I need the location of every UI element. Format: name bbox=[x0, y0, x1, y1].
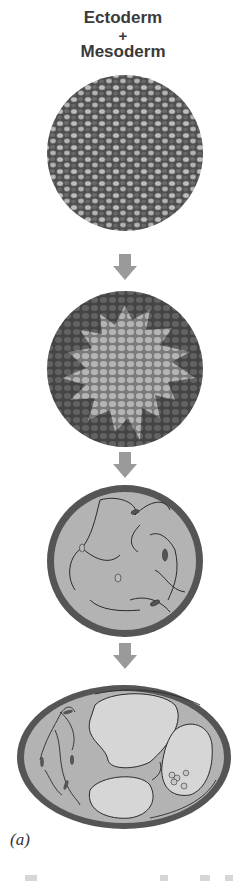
cavity-lower bbox=[89, 777, 153, 819]
cut-off-caption-fragment bbox=[200, 875, 210, 881]
cut-off-caption-fragment bbox=[225, 875, 233, 881]
panel-label: (a) bbox=[10, 830, 30, 850]
cut-off-caption-fragment bbox=[25, 875, 37, 881]
arrow-down-icon bbox=[113, 643, 137, 669]
stage-2-sorting-cells bbox=[47, 291, 203, 447]
arrow-down-icon bbox=[113, 452, 137, 478]
arrow-down-icon bbox=[113, 254, 137, 280]
stage-3-mesenchyme-sphere bbox=[47, 485, 203, 637]
stage-1-mixed-cells bbox=[47, 75, 203, 231]
diagram-canvas bbox=[0, 0, 246, 881]
cut-off-caption-fragment bbox=[160, 875, 168, 881]
stage-4-oval-with-cavities bbox=[17, 685, 231, 829]
